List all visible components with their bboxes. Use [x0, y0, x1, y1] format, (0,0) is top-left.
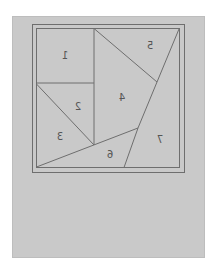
piece-label-5: 5: [147, 40, 153, 51]
piece-label-3: 3: [57, 131, 63, 142]
piece-label-7: 7: [157, 134, 163, 145]
edge-diagonal-6: [37, 128, 139, 167]
edge-diagonal-2-3: [37, 84, 95, 145]
piece-label-2: 2: [75, 101, 81, 112]
piece-label-1: 1: [62, 50, 68, 61]
inner-frame: [37, 29, 180, 168]
edge-diagonal-4-5: [94, 29, 157, 83]
piece-label-6: 6: [107, 149, 113, 160]
puzzle-diagram: 1 2 3 4 5 6 7: [0, 0, 215, 270]
piece-label-4: 4: [119, 92, 125, 103]
